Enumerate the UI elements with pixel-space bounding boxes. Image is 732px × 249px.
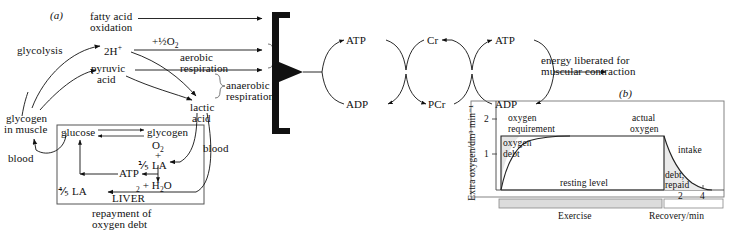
label-glycogen-muscle-2: in muscle	[4, 124, 47, 136]
label-oxidation: oxidation	[90, 22, 132, 34]
cycle-atp-adp-1	[322, 40, 406, 104]
label-four-fifths-la: ⅘ LA	[58, 186, 87, 198]
label-glucose: glucose	[61, 127, 95, 139]
label-o2-subscript: 2	[175, 41, 179, 50]
label-glycolysis: glycolysis	[17, 45, 63, 57]
label-2h-plus: 2H+	[104, 42, 122, 57]
chart-annotation-oxygen-debt-2: debt	[503, 149, 520, 161]
cycle-cr-pcr	[406, 40, 472, 104]
chart-xtick-2: 2	[678, 191, 683, 203]
panel-a-label: (a)	[50, 10, 63, 22]
chart-axis-bar-recovery: Recovery/min	[649, 211, 704, 223]
chart-annotation-oxygen-debt-1: oxygen	[503, 138, 532, 150]
chart-annotation-actual-2: oxygen	[630, 124, 659, 136]
arrow-atp-to-glucose	[80, 140, 118, 174]
label-energy-output-2: muscular contraction	[541, 66, 636, 78]
chart-xtick-4: 4	[700, 191, 705, 203]
chart-annotation-oxygen-requirement-2: requirement	[508, 124, 555, 136]
label-lactic-acid: acid	[192, 113, 211, 125]
arrow-glucose-glycogen-reversible	[98, 130, 144, 136]
chart-annotation-intake: intake	[678, 145, 702, 157]
chart-annotation-oxygen-requirement-1: oxygen	[508, 113, 537, 125]
label-pyruvic-acid: acid	[97, 74, 116, 86]
chart-annotation-actual-1: actual	[632, 113, 655, 125]
label-blood-right: blood	[203, 143, 229, 155]
label-atp-2: ATP	[495, 35, 515, 47]
label-blood-left: blood	[8, 153, 34, 165]
panel-b-label: (b)	[619, 88, 632, 100]
chart-ytick-1: 1	[484, 149, 489, 161]
label-aerobic-respiration: respiration	[180, 63, 228, 75]
chart-annotation-resting-level: resting level	[560, 178, 608, 190]
chart-axis-bar-exercise: Exercise	[558, 211, 592, 223]
label-adp-1: ADP	[346, 99, 368, 111]
label-repayment-line2: oxygen debt	[92, 219, 147, 231]
label-one-fifth-la: ⅕ LA	[138, 160, 167, 172]
label-atp-1: ATP	[346, 35, 366, 47]
arrow-glycolysis-to-pyruvic	[40, 70, 96, 110]
label-2h-plus-charge: +	[118, 43, 122, 52]
label-plus-half-o2: +½O2	[152, 36, 179, 52]
label-glycogen-liver: glycogen	[147, 127, 188, 139]
label-anaerobic-respiration: respiration	[226, 91, 274, 103]
label-atp-liver: ATP	[119, 168, 139, 180]
label-liver: LIVER	[112, 193, 145, 205]
label-cr: Cr	[427, 35, 438, 47]
label-pcr: PCr	[428, 99, 445, 111]
chart-annotation-debt-repaid-2: repaid	[665, 180, 689, 192]
brace-anaerobic-respiration	[215, 74, 225, 98]
chart-y-axis-label: Extra oxygen/dm³ min⁻¹	[467, 98, 479, 208]
figure-root: (a) (b) fatty acid oxidation glycolysis …	[0, 0, 732, 249]
label-adp-2: ADP	[495, 99, 517, 111]
chart-ytick-2: 2	[484, 114, 489, 126]
arrow-pyruvic-to-lactic	[126, 76, 192, 100]
energy-funnel-bracket	[272, 12, 322, 134]
